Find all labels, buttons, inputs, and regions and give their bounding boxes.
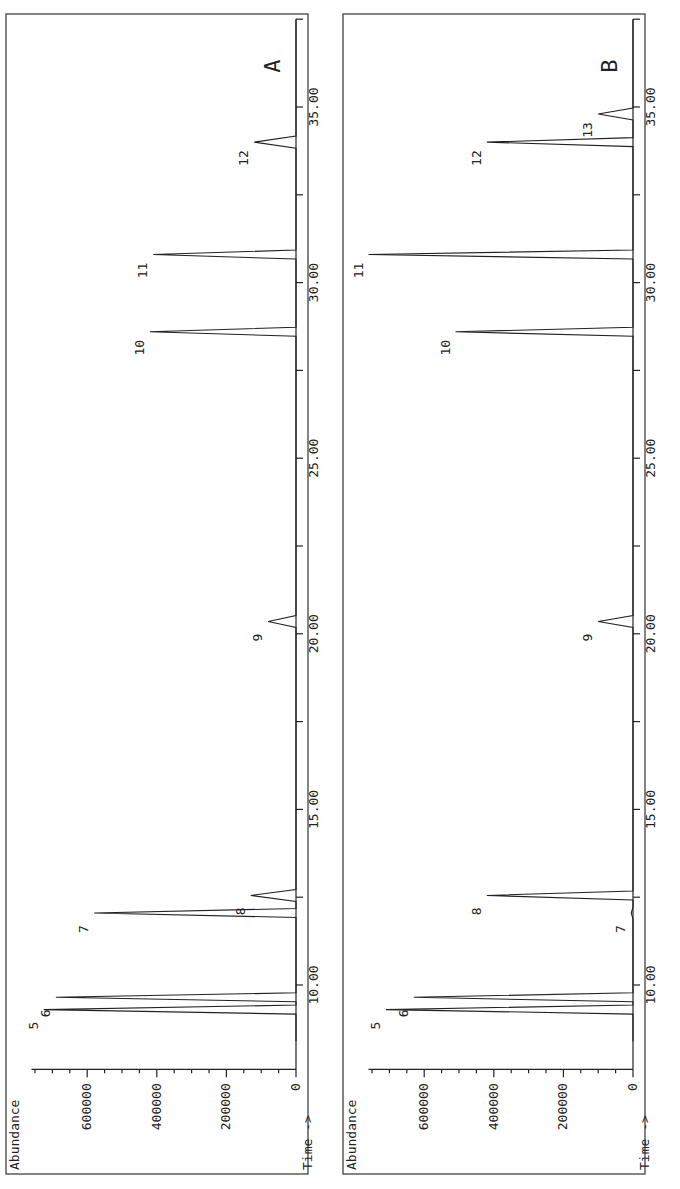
abundance-axis-title: Abundance — [344, 1099, 359, 1170]
abundance-tick-label: 200000 — [555, 1083, 570, 1130]
abundance-tick-label: 400000 — [149, 1083, 164, 1130]
peak-label: 11 — [351, 263, 366, 279]
peak-label: 5 — [368, 1022, 383, 1030]
time-axis-title: Time -> — [300, 1115, 315, 1170]
panel-letter: B — [597, 59, 622, 72]
time-tick-label: 20.00 — [643, 614, 658, 653]
peak-label: 8 — [469, 908, 484, 916]
peak-label: 10 — [132, 340, 147, 356]
time-tick-label: 25.00 — [643, 439, 658, 478]
chromatogram-trace — [44, 19, 296, 1041]
panel-frame — [343, 14, 645, 1174]
abundance-tick-label: 200000 — [218, 1083, 233, 1130]
abundance-tick-label: 0 — [288, 1083, 303, 1091]
peak-label: 10 — [438, 340, 453, 356]
time-tick-label: 10.00 — [306, 965, 321, 1004]
time-tick-label: 35.00 — [306, 87, 321, 126]
peak-label: 13 — [580, 122, 595, 138]
peak-label: 6 — [38, 1009, 53, 1017]
peak-label: 12 — [236, 150, 251, 166]
abundance-tick-label: 0 — [625, 1083, 640, 1091]
panel-a: 020000040000060000010.0015.0020.0025.003… — [6, 14, 321, 1174]
time-tick-label: 35.00 — [643, 87, 658, 126]
time-tick-label: 30.00 — [643, 263, 658, 302]
peak-label: 11 — [135, 263, 150, 279]
peak-label: 12 — [469, 150, 484, 166]
time-tick-label: 15.00 — [643, 790, 658, 829]
time-tick-label: 20.00 — [306, 614, 321, 653]
panel-b: 020000040000060000010.0015.0020.0025.003… — [343, 14, 658, 1174]
chromatogram-figure: 020000040000060000010.0015.0020.0025.003… — [0, 0, 680, 1189]
peak-label: 9 — [250, 634, 265, 642]
peak-label: 9 — [580, 634, 595, 642]
time-axis-title: Time -> — [637, 1115, 652, 1170]
time-tick-label: 30.00 — [306, 263, 321, 302]
peak-label: 7 — [76, 925, 91, 933]
chromatogram-trace — [369, 19, 633, 1041]
figure: 020000040000060000010.0015.0020.0025.003… — [0, 0, 680, 1189]
time-tick-label: 10.00 — [643, 965, 658, 1004]
time-tick-label: 25.00 — [306, 439, 321, 478]
peak-label: 7 — [613, 925, 628, 933]
peak-label: 8 — [233, 908, 248, 916]
peak-label: 6 — [396, 1009, 411, 1017]
abundance-tick-label: 400000 — [486, 1083, 501, 1130]
panel-frame — [6, 14, 308, 1174]
peak-label: 5 — [26, 1022, 41, 1030]
abundance-tick-label: 600000 — [79, 1083, 94, 1130]
abundance-tick-label: 600000 — [416, 1083, 431, 1130]
panel-letter: A — [260, 59, 285, 72]
time-tick-label: 15.00 — [306, 790, 321, 829]
abundance-axis-title: Abundance — [7, 1099, 22, 1170]
